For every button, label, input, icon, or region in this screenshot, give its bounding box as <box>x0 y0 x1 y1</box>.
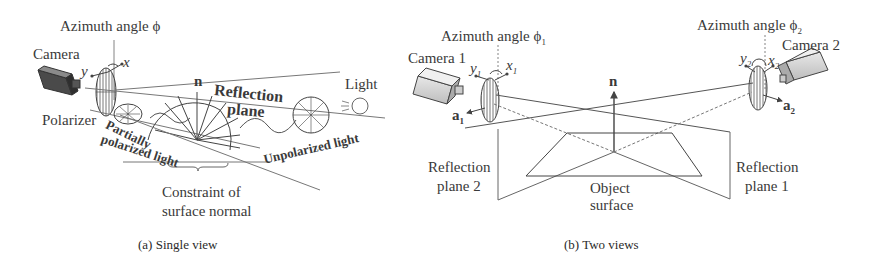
camera-2-icon <box>778 48 828 84</box>
normal-n-label-b: n <box>609 73 617 89</box>
x1-subscript: 1 <box>513 66 518 76</box>
x1-label: x1 <box>506 57 517 79</box>
azimuth-angle-label: Azimuth angle ϕ <box>60 18 160 34</box>
unpolarized-circle <box>293 97 329 133</box>
reflection-plane-2-label-line1: Reflection <box>428 159 490 175</box>
normal-fan <box>148 92 240 150</box>
polarizer-icon <box>96 68 116 116</box>
x1-text: x <box>506 57 513 73</box>
caption-b: (b) Two views <box>564 237 639 253</box>
x2-subscript: 2 <box>775 61 780 71</box>
a1-vector-label: a1 <box>452 107 464 129</box>
x-axis-label: x <box>123 54 130 70</box>
x2-text: x <box>768 52 775 68</box>
constraint-label-line1: Constraint of <box>162 184 241 200</box>
y-axis-label: y <box>81 63 88 79</box>
object-surface-label-line2: surface <box>590 197 633 213</box>
reflection-plane-1-label-line2: plane 1 <box>745 178 789 194</box>
plane-label: plane <box>227 101 266 120</box>
phi-symbol: ϕ <box>152 18 160 34</box>
normal-n-label: n <box>194 73 202 89</box>
a1-subscript: 1 <box>460 116 465 126</box>
y2-label: y2 <box>740 50 751 72</box>
phi-1-subscript: 1 <box>541 37 546 47</box>
camera-1-icon <box>413 68 463 104</box>
azimuth-2-text: Azimuth angle <box>697 17 786 33</box>
light-source-icon <box>341 98 368 114</box>
a2-text: a <box>783 97 791 113</box>
constraint-label-line2: surface normal <box>162 203 252 219</box>
a2-vector-label: a2 <box>783 97 795 119</box>
camera-1-label: Camera 1 <box>408 50 466 66</box>
y1-label: y1 <box>470 60 481 82</box>
y2-text: y <box>740 50 747 66</box>
polarizer-label: Polarizer <box>42 112 96 128</box>
caption-a: (a) Single view <box>138 237 217 253</box>
x2-label: x2 <box>768 52 779 74</box>
a2-subscript: 2 <box>791 106 796 116</box>
azimuth-angle-1-label: Azimuth angle ϕ1 <box>441 28 546 50</box>
polarizer-1-icon <box>481 78 499 122</box>
camera-2-label: Camera 2 <box>782 37 840 53</box>
phi-2-subscript: 2 <box>797 26 802 36</box>
reflection-plane-1 <box>614 132 730 199</box>
object-surface-label-line1: Object <box>590 180 630 196</box>
reflection-plane-1-label-line1: Reflection <box>736 159 798 175</box>
camera-label: Camera <box>33 46 80 62</box>
y1-subscript: 1 <box>477 69 482 79</box>
a1-text: a <box>452 107 460 123</box>
azimuth-text: Azimuth angle <box>60 18 149 34</box>
y2-subscript: 2 <box>747 59 752 69</box>
polarizer-2-icon <box>749 66 767 110</box>
camera-icon <box>38 66 80 95</box>
reflection-plane-2-label-line2: plane 2 <box>437 178 481 194</box>
light-label: Light <box>345 76 378 92</box>
y1-text: y <box>470 60 477 76</box>
azimuth-angle-2-label: Azimuth angle ϕ2 <box>697 17 802 39</box>
azimuth-1-text: Azimuth angle <box>441 28 530 44</box>
